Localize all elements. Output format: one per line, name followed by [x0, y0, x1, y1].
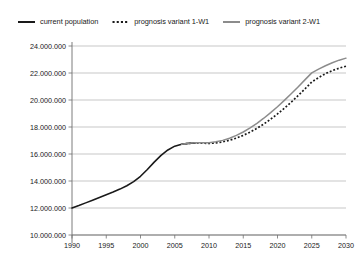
x-tick-label: 2015 [235, 241, 251, 250]
legend-label: prognosis variant 1-W1 [134, 18, 209, 26]
y-tick-label: 16.000.000 [30, 150, 66, 159]
chart-svg: 24.000.00022.000.00020.000.00018.000.000… [0, 34, 358, 264]
y-tick-label: 12.000.000 [30, 204, 66, 213]
legend-label: current population [40, 18, 98, 26]
x-axis-ticks [72, 235, 346, 239]
x-tick-label: 2005 [167, 241, 183, 250]
x-tick-label: 2030 [338, 241, 354, 250]
x-tick-label: 2025 [304, 241, 320, 250]
series-line [182, 58, 346, 144]
dotted-line-black-icon [112, 18, 129, 26]
chart-legend: current population prognosis variant 1-W… [0, 14, 358, 30]
y-axis-ticks [69, 46, 73, 235]
solid-line-gray-icon [223, 18, 240, 26]
y-axis-tick-labels: 24.000.00022.000.00020.000.00018.000.000… [30, 42, 66, 240]
y-tick-label: 24.000.000 [30, 42, 66, 51]
gridlines [72, 46, 346, 235]
legend-item-current-population[interactable]: current population [18, 18, 98, 26]
data-series [72, 58, 346, 208]
y-tick-label: 10.000.000 [30, 231, 66, 240]
y-tick-label: 22.000.000 [30, 69, 66, 78]
legend-item-prognosis-variant-2[interactable]: prognosis variant 2-W1 [223, 18, 320, 26]
solid-line-black-icon [18, 18, 35, 26]
y-tick-label: 14.000.000 [30, 177, 66, 186]
x-tick-label: 1995 [98, 241, 114, 250]
y-tick-label: 18.000.000 [30, 123, 66, 132]
x-tick-label: 2000 [133, 241, 149, 250]
series-line [182, 66, 346, 144]
x-tick-label: 2020 [270, 241, 286, 250]
plot-area: 24.000.00022.000.00020.000.00018.000.000… [0, 34, 358, 264]
x-axis-tick-labels: 199019952000200520102015202020252030 [64, 241, 354, 250]
y-tick-label: 20.000.000 [30, 96, 66, 105]
x-tick-label: 2010 [201, 241, 217, 250]
series-line [72, 143, 195, 208]
x-tick-label: 1990 [64, 241, 80, 250]
legend-item-prognosis-variant-1[interactable]: prognosis variant 1-W1 [112, 18, 209, 26]
legend-label: prognosis variant 2-W1 [245, 18, 320, 26]
population-projection-chart: current population prognosis variant 1-W… [0, 0, 358, 264]
